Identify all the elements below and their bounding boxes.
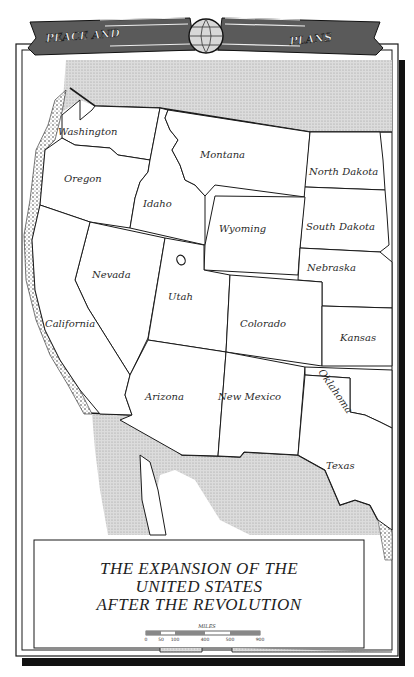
map-illustration: WashingtonOregonIdahoMontanaNorth Dakota… [0,0,414,677]
banner: PEACE AND PLANS [28,18,383,55]
state-label-idaho: Idaho [142,198,172,209]
scale-unit-label: MILES [197,623,216,629]
state-label-north-dakota: North Dakota [308,166,378,177]
scale-tick-label: 500 [226,637,235,642]
frame-shadow-bottom [22,658,405,666]
state-north-dakota [305,132,385,190]
scale-tick-label: 400 [201,637,210,642]
scale-tick-label: 0 [145,637,148,642]
state-south-dakota [300,187,389,252]
title-line-2: UNITED STATES [136,577,263,596]
title-line-3: AFTER THE REVOLUTION [96,595,303,614]
title-line-1: THE EXPANSION OF THE [100,559,298,578]
state-label-california: California [45,318,95,329]
state-label-wyoming: Wyoming [219,223,266,234]
scale-seg-1 [146,631,161,635]
state-label-utah: Utah [168,291,193,302]
state-label-south-dakota: South Dakota [306,221,375,232]
state-label-nebraska: Nebraska [306,262,356,273]
state-new-mexico [218,352,305,457]
state-label-nevada: Nevada [91,269,131,280]
scale-seg-3 [230,631,260,635]
scale-tick-label: 900 [256,637,265,642]
state-label-arizona: Arizona [144,391,184,402]
state-label-montana: Montana [199,149,245,160]
scale-seg-2 [175,631,205,635]
state-label-new-mexico: New Mexico [217,391,281,402]
scale-tick-label: 100 [171,637,180,642]
frame-shadow-right [399,60,405,666]
scale-tick-label: 50 [158,637,164,642]
state-label-colorado: Colorado [240,318,286,329]
state-label-oregon: Oregon [64,173,102,184]
state-wyoming [204,196,305,275]
state-label-kansas: Kansas [339,332,376,343]
state-label-texas: Texas [326,460,355,471]
state-label-washington: Washington [58,126,117,137]
